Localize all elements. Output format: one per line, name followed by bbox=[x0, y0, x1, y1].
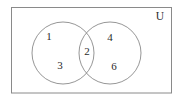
region-label-left-only-3: 3 bbox=[57, 60, 63, 71]
venn-diagram-canvas bbox=[0, 0, 182, 102]
region-label-left-only-1: 1 bbox=[46, 31, 52, 42]
region-label-right-only-4: 4 bbox=[107, 32, 113, 43]
region-label-intersection-2: 2 bbox=[84, 46, 90, 57]
universe-label: U bbox=[156, 11, 164, 23]
region-label-right-only-6: 6 bbox=[111, 61, 117, 72]
venn-diagram-figure: U 1 3 2 4 6 bbox=[0, 0, 182, 102]
universe-rectangle bbox=[12, 8, 172, 94]
